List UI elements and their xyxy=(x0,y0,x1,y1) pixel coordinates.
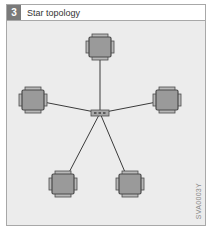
computer-icon xyxy=(153,87,181,113)
hub-icon xyxy=(91,110,109,116)
topology-graphic xyxy=(0,0,211,234)
computer-icon xyxy=(49,171,77,197)
computer-icon xyxy=(19,87,47,113)
computer-icon xyxy=(86,34,114,60)
computer-icon xyxy=(116,171,144,197)
